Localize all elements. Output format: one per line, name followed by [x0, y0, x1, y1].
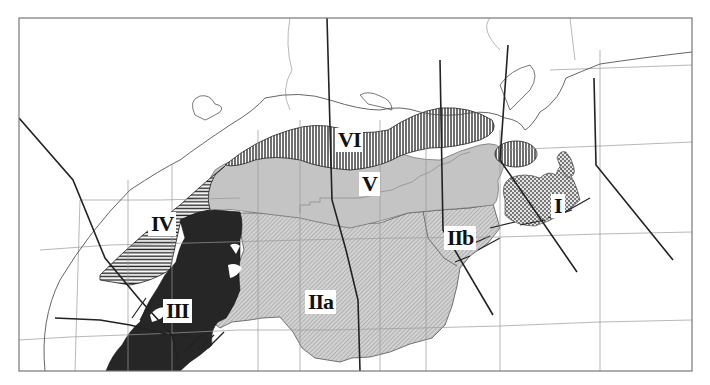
bay-outline [360, 93, 392, 110]
zone-label-v: V [359, 172, 380, 196]
zone-label-i: I [551, 194, 565, 218]
zone-label-iib: IIb [444, 226, 476, 250]
geologic-zone-map [0, 0, 710, 385]
zone-label-iv: IV [148, 212, 176, 236]
zone-label-iii: III [163, 299, 192, 323]
bay-outline [192, 96, 221, 120]
zone-label-vi: VI [335, 128, 363, 152]
zone-label-iia: IIa [305, 290, 336, 314]
